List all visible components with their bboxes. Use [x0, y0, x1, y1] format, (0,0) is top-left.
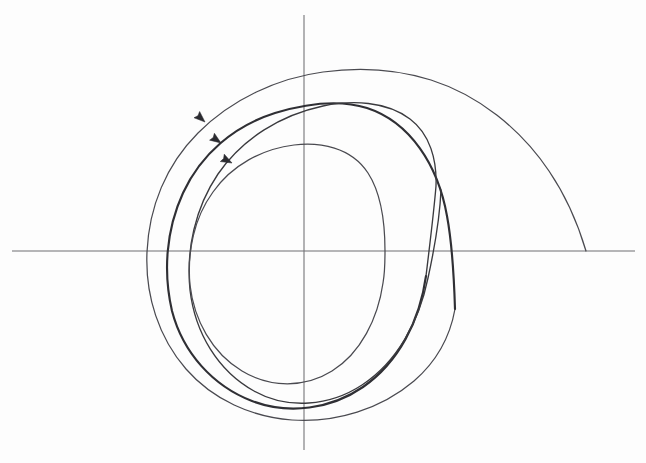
axis-group: [12, 15, 635, 450]
inner-orbit-path: [189, 144, 385, 384]
phase-portrait-figure: Spiral phase portrait with limit cycle: [0, 0, 646, 463]
inner-orbit-group: [189, 144, 385, 384]
arrow-limit-cycle-icon: [210, 133, 224, 146]
limit-cycle-group: [167, 103, 455, 408]
outer-trajectory-path: [147, 69, 586, 420]
arrow-outer-trajectory-icon: [194, 112, 208, 126]
outer-trajectory-group: [147, 69, 586, 420]
inner-trajectory-group: [189, 103, 441, 404]
limit-cycle-path: [167, 103, 455, 408]
direction-markers-group: [194, 112, 234, 167]
phase-portrait-canvas: Spiral phase portrait with limit cycle: [0, 0, 646, 463]
inner-trajectory-path: [189, 103, 441, 404]
